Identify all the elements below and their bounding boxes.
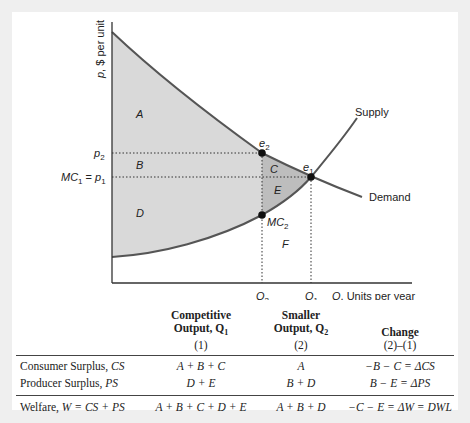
surplus-comparison-table: Competitive Output, Q1 (1) Smaller Outpu… — [16, 309, 454, 416]
mc2-label: MC2 — [267, 216, 289, 231]
welfare-competitive: A + B + C + D + E — [146, 396, 256, 417]
welfare-smaller: A + B + D — [256, 396, 346, 417]
header-competitive-output: Competitive Output, Q1 (1) — [146, 309, 256, 356]
ps-change: B − E = ΔPS — [346, 375, 454, 396]
cs-smaller: A — [256, 356, 346, 376]
cs-competitive: A + B + C — [146, 356, 256, 376]
demand-label: Demand — [369, 191, 411, 203]
row-label-welfare: Welfare, W = CS + PS — [16, 396, 146, 417]
row-label-cs: Consumer Surplus, CS — [16, 356, 146, 376]
table-row-producer-surplus: Producer Surplus, PS D + E B + D B − E =… — [16, 375, 454, 396]
p2-label: p2 — [93, 147, 105, 162]
supply-label: Supply — [355, 106, 389, 118]
header-smaller-output: Smaller Output, Q2 (2) — [256, 309, 346, 356]
region-f-label: F — [282, 238, 290, 250]
y-axis-label: p, $ per unit — [94, 20, 106, 79]
mc2-point — [258, 211, 266, 219]
row-label-ps: Producer Surplus, PS — [16, 375, 146, 396]
header-empty — [16, 309, 146, 356]
q1-label: Q1 — [305, 290, 319, 300]
table-row-consumer-surplus: Consumer Surplus, CS A + B + C A −B − C … — [16, 356, 454, 376]
region-b-label: B — [136, 159, 143, 171]
region-d-label: E — [274, 184, 282, 196]
surplus-diagram: p, $ per unit p2 MC1 = p1 Q2 Q1 Q, Units… — [0, 0, 470, 300]
ps-smaller: B + D — [256, 375, 346, 396]
x-axis-label: Q, Units per year — [332, 290, 415, 300]
table-row-welfare: Welfare, W = CS + PS A + B + C + D + E A… — [16, 396, 454, 417]
header-change: Change (2)–(1) — [346, 309, 454, 356]
region-abd-shading — [112, 32, 262, 257]
cs-change: −B − C = ΔCS — [346, 356, 454, 376]
region-e-label: D — [136, 207, 144, 219]
mc1-p1-label: MC1 = p1 — [61, 171, 106, 186]
region-a-label: A — [135, 108, 143, 120]
table-header-row: Competitive Output, Q1 (1) Smaller Outpu… — [16, 309, 454, 356]
ps-competitive: D + E — [146, 375, 256, 396]
welfare-change: −C − E = ΔW = DWL — [346, 396, 454, 417]
q2-label: Q2 — [256, 290, 270, 300]
region-c-label: C — [270, 163, 278, 175]
